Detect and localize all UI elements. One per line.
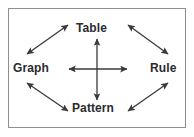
arrow-graph-table (27, 25, 68, 54)
node-label-graph: Graph (13, 62, 49, 75)
node-label-table: Table (76, 22, 107, 35)
arrow-graph-pattern (27, 83, 68, 111)
node-label-pattern: Pattern (72, 102, 114, 115)
diagram-container: Table Graph Rule Pattern (0, 0, 194, 137)
node-label-rule: Rule (150, 62, 176, 75)
arrow-pattern-rule (128, 83, 168, 111)
arrow-table-rule (128, 25, 168, 54)
